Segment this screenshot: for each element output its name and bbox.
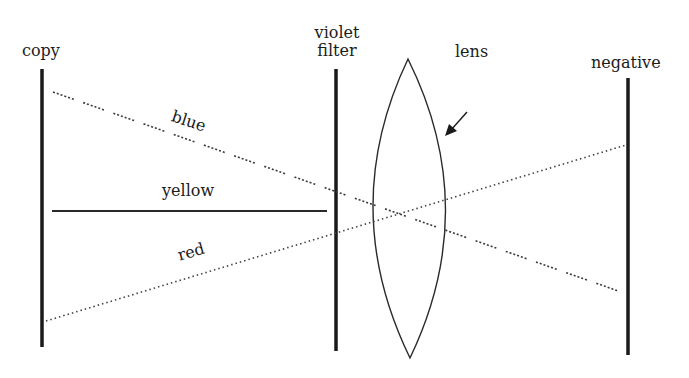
lens-shape bbox=[373, 59, 446, 358]
lens-label: lens bbox=[455, 43, 488, 61]
lens-pointer-arrow bbox=[445, 112, 467, 136]
copy-label: copy bbox=[22, 42, 60, 60]
yellow-ray-label: yellow bbox=[162, 182, 214, 200]
violet-filter-label-line2: filter bbox=[308, 42, 366, 60]
negative-label: negative bbox=[591, 54, 661, 72]
violet-filter-label: violet filter bbox=[308, 24, 366, 60]
blue-ray bbox=[53, 92, 624, 293]
violet-filter-label-line1: violet bbox=[308, 24, 366, 42]
